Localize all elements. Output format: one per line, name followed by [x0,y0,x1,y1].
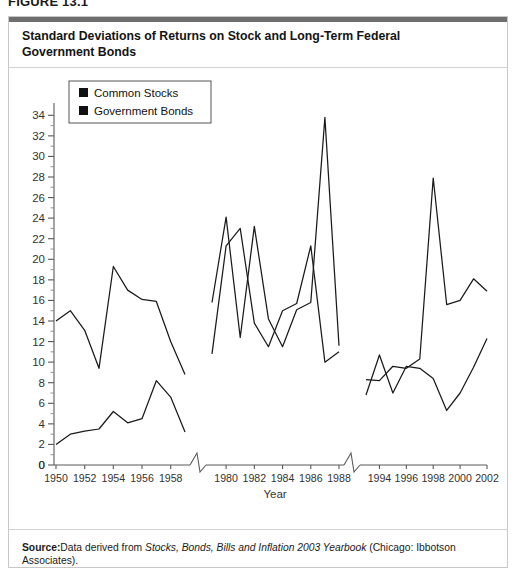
legend-label: Government Bonds [94,105,193,117]
y-tick-label: 4 [39,418,46,430]
series-line-government-bonds [56,381,185,445]
figure-title-area: Standard Deviations of Returns on Stock … [9,22,507,68]
y-tick-label: 18 [32,274,45,286]
y-tick-label: 26 [32,192,45,204]
chart-plot-area: 0246810121416182022242628303234 01950195… [9,69,507,515]
x-tick-label: 1958 [159,472,183,484]
x-axis: 0195019521954195619581980198219841986198… [39,453,499,484]
source-body-1: Data derived from [60,542,145,553]
y-tick-label: 6 [39,397,45,409]
x-tick-label: 1952 [73,472,97,484]
series-line-common-stocks [212,117,339,346]
x-tick-label: 1956 [130,472,154,484]
y-tick-label: 16 [32,294,45,306]
x-axis-title: Year [263,488,286,500]
series-line-government-bonds [212,228,339,362]
x-tick-label: 2000 [448,472,472,484]
x-tick-label: 1954 [102,472,126,484]
figure-label: FIGURE 13.1 [8,0,88,9]
axis-break-symbol [190,453,206,472]
x-tick-label: 1994 [368,472,392,484]
y-tick-label: 22 [32,233,45,245]
x-tick-label: 1986 [299,472,323,484]
y-tick-label: 32 [32,130,45,142]
series-line-government-bonds [366,338,487,410]
axis-break-symbol [344,453,360,472]
y-tick-label: 8 [39,377,45,389]
y-axis: 0246810121416182022242628303234 [32,103,54,471]
series-line-common-stocks [366,178,487,381]
legend-swatch-icon [79,106,88,115]
data-series-group [56,117,487,444]
y-tick-label: 2 [39,438,45,450]
y-tick-label-zero: 0 [39,459,45,471]
x-tick-label: 1982 [243,472,267,484]
x-tick-label: 1998 [421,472,445,484]
source-prefix: Source: [22,542,60,553]
x-tick-label: 1950 [44,472,68,484]
y-tick-label: 30 [32,150,45,162]
source-title-italic: Stocks, Bonds, Bills and Inflation 2003 … [145,542,366,553]
line-chart-svg: 0246810121416182022242628303234 01950195… [9,69,507,515]
x-tick-label: 1980 [214,472,238,484]
y-tick-label: 14 [32,315,45,327]
figure-container: Standard Deviations of Returns on Stock … [8,16,508,568]
x-axis-label: Year [263,488,286,500]
figure-source-note: Source:Data derived from Stocks, Bonds, … [22,541,492,568]
y-tick-label: 20 [32,253,45,265]
y-tick-label: 34 [32,109,45,121]
legend-swatch-icon [79,88,88,97]
x-tick-label: 1996 [395,472,419,484]
y-tick-label: 28 [32,171,45,183]
y-tick-label: 10 [32,356,45,368]
legend-label: Common Stocks [94,87,179,99]
y-tick-label: 12 [32,336,45,348]
chart-legend: Common StocksGovernment Bonds [69,81,211,123]
x-tick-label: 1988 [327,472,351,484]
series-line-common-stocks [56,266,185,374]
y-tick-label: 24 [32,212,45,224]
x-tick-label: 2002 [475,472,499,484]
figure-source-area: Source:Data derived from Stocks, Bonds, … [9,529,507,567]
x-tick-label: 1984 [271,472,295,484]
figure-title: Standard Deviations of Returns on Stock … [22,28,452,61]
